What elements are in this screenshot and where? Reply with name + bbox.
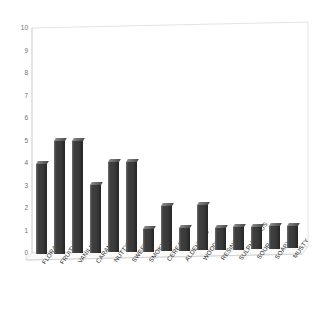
bar — [72, 141, 83, 254]
bar — [233, 227, 244, 250]
bar-chart: 109876543210 FLORALFRUITYVANILLACARAMELN… — [0, 0, 325, 329]
bar-top-cap — [269, 223, 282, 226]
bar-top-cap — [233, 224, 246, 227]
bar-top-cap — [161, 203, 174, 206]
bar — [269, 226, 280, 249]
bar — [251, 227, 262, 250]
bar-top-cap — [251, 224, 264, 227]
bar-top-cap — [197, 202, 210, 205]
bar — [215, 228, 226, 251]
bar — [126, 162, 137, 252]
bar — [179, 228, 190, 251]
bar — [90, 185, 101, 253]
bar — [36, 164, 47, 254]
bar — [197, 205, 208, 250]
bar-top-cap — [287, 223, 300, 226]
bar — [287, 226, 298, 249]
plot-area: FLORALFRUITYVANILLACARAMELNUTTYSWEETSMOK… — [0, 0, 325, 329]
bar-top-cap — [126, 159, 139, 162]
bar-top-cap — [143, 226, 156, 229]
bar — [161, 206, 172, 251]
bar-top-cap — [72, 138, 85, 141]
bar-top-cap — [54, 138, 67, 141]
bar — [108, 162, 119, 252]
bar-top-cap — [179, 225, 192, 228]
bar — [143, 229, 154, 252]
bar-top-cap — [90, 182, 103, 185]
bar-top-cap — [108, 159, 121, 162]
bar-top-cap — [36, 161, 49, 164]
bar-top-cap — [215, 225, 228, 228]
bar — [54, 141, 65, 254]
